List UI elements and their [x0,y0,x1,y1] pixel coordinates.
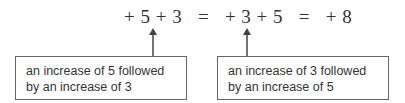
annotation-line: by an increase of 3 [26,79,186,95]
annotation-box-right: an increase of 3 followed by an increase… [217,56,389,100]
annotation-line: an increase of 5 followed [26,63,186,79]
arrow-up-icon [147,28,159,57]
annotation-line: by an increase of 5 [228,79,388,95]
annotation-box-left: an increase of 5 followed by an increase… [15,56,187,100]
equation: + 5 + 3 = + 3 + 5 = + 8 [124,6,352,28]
arrow-up-icon [241,28,253,57]
annotation-line: an increase of 3 followed [228,63,388,79]
